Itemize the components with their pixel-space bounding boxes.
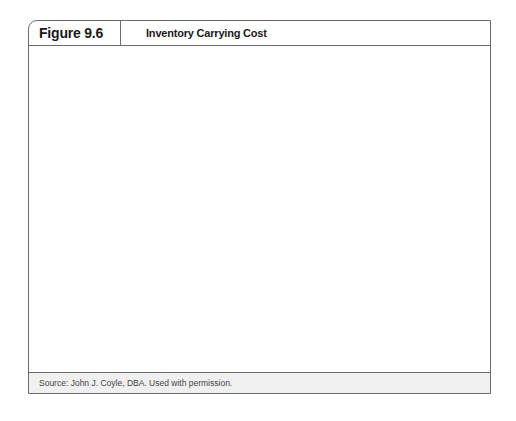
figure-header: Figure 9.6 Inventory Carrying Cost [29,21,490,46]
figure-number: Figure 9.6 [29,21,121,45]
figure-footer: Source: John J. Coyle, DBA. Used with pe… [29,372,490,393]
source-note: Source: John J. Coyle, DBA. Used with pe… [39,373,232,393]
figure-frame: Figure 9.6 Inventory Carrying Cost Sourc… [28,20,491,394]
figure-title: Inventory Carrying Cost [146,21,267,45]
